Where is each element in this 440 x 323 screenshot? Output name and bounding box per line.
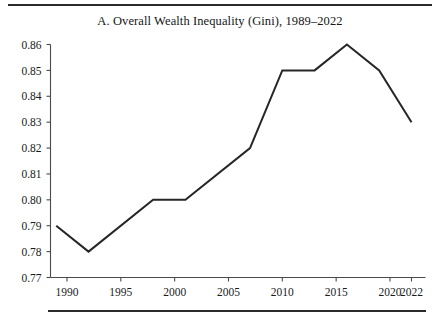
x-tick-label: 2010 [271,286,294,298]
y-tick-label: 0.80 [21,194,41,206]
y-tick-label: 0.84 [21,90,41,102]
figure-panel-a: A. Overall Wealth Inequality (Gini), 198… [0,0,440,323]
x-axis-tick-labels: 19901995200020052010201520202022 [56,286,424,298]
y-tick-label: 0.81 [21,168,41,180]
data-series-line [56,45,411,252]
x-tick-label: 1990 [56,286,79,298]
y-axis-tick-labels: 0.860.850.840.830.820.810.800.790.780.77 [21,39,41,284]
y-tick-label: 0.78 [21,246,41,258]
y-tick-label: 0.86 [21,39,41,51]
x-tick-label: 2020 [378,286,401,298]
line-chart-plot: 0.860.850.840.830.820.810.800.790.780.77… [0,0,440,323]
y-axis-tick-marks [47,45,51,278]
x-tick-label: 2000 [163,286,186,298]
x-tick-label: 2015 [325,286,348,298]
y-tick-label: 0.83 [21,116,41,128]
x-tick-label: 1995 [109,286,132,298]
bottom-divider-rule [48,310,426,312]
x-tick-label: 2022 [400,286,423,298]
y-tick-label: 0.77 [21,272,41,284]
y-tick-label: 0.79 [21,220,41,232]
y-tick-label: 0.85 [21,65,41,77]
x-axis-tick-marks [67,278,412,282]
x-tick-label: 2005 [217,286,240,298]
y-tick-label: 0.82 [21,142,41,154]
